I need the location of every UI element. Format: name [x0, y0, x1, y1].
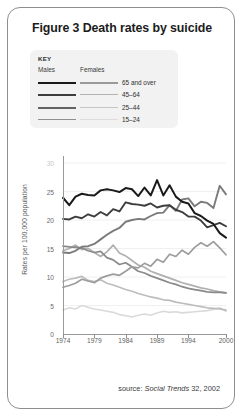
- legend-swatch-male: [38, 82, 76, 84]
- x-tickmark: [157, 334, 158, 338]
- chart-series-line: [63, 202, 226, 227]
- chart-series-line: [63, 180, 226, 238]
- source-suffix: 32, 2002: [189, 384, 220, 393]
- source-prefix: source:: [118, 384, 144, 393]
- figure-card: Figure 3 Death rates by suicide KEY Male…: [7, 7, 235, 409]
- legend-column-females: Females: [80, 66, 105, 73]
- x-tickmark: [63, 334, 64, 338]
- legend-label: 15–24: [122, 116, 140, 123]
- legend-label: 65 and over: [122, 79, 156, 86]
- x-tickmark: [226, 334, 227, 338]
- legend-swatch-male: [38, 94, 76, 96]
- legend-column-males: Males: [38, 66, 55, 73]
- legend-swatch-male: [38, 107, 76, 109]
- source-note: source: Social Trends 32, 2002: [8, 384, 220, 393]
- legend-row: 65 and over: [30, 78, 178, 91]
- legend-swatch-female: [80, 119, 118, 120]
- legend-label: 25–44: [122, 104, 140, 111]
- x-tickmark: [188, 334, 189, 338]
- x-tickmark: [94, 334, 95, 338]
- chart-lines: [8, 134, 236, 359]
- x-tickmark: [126, 334, 127, 338]
- figure-title: Figure 3 Death rates by suicide: [8, 21, 236, 35]
- legend-label: 45–64: [122, 91, 140, 98]
- chart-series-line: [63, 246, 226, 293]
- y-axis-line: [63, 156, 64, 334]
- chart-plot-area: Rates per 100,000 population 05101520253…: [8, 134, 236, 359]
- source-publication: Social Trends: [145, 384, 190, 393]
- x-axis-line: [63, 334, 226, 335]
- legend-swatch-male: [38, 119, 76, 120]
- legend-key-box: KEY Males Females 65 and over45–6425–441…: [30, 50, 178, 128]
- legend-swatch-female: [80, 82, 118, 84]
- legend-row: 45–64: [30, 90, 178, 103]
- chart-series-line: [63, 245, 226, 293]
- legend-heading: KEY: [38, 55, 51, 62]
- legend-swatch-female: [80, 94, 118, 95]
- legend-row: 25–44: [30, 103, 178, 116]
- legend-row: 15–24: [30, 115, 178, 128]
- legend-swatch-female: [80, 107, 118, 108]
